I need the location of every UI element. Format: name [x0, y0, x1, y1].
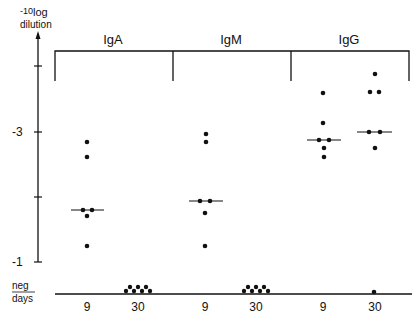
x-label-iga-9: 9	[84, 300, 91, 314]
x-label-igm-9: 9	[202, 300, 209, 314]
x-label-igg-30: 30	[368, 300, 382, 314]
series-igm-30	[242, 285, 270, 293]
series-igg-30	[357, 72, 392, 295]
x-label-iga-30: 30	[131, 300, 145, 314]
group-label-igm: IgM	[220, 32, 242, 47]
neg-label: neg	[12, 280, 29, 291]
ylabel-exp: -10	[20, 6, 33, 16]
series-igg-9	[307, 91, 341, 160]
data-point	[85, 140, 90, 145]
y-tick-label: -3	[12, 125, 23, 139]
data-point	[85, 155, 90, 160]
group-label-iga: IgA	[103, 32, 123, 47]
days-label: days	[12, 293, 33, 304]
dot-plot: -10 log dilution -3 -1 neg days IgA IgM …	[0, 0, 419, 319]
data-point	[85, 214, 90, 219]
data-point	[81, 208, 86, 213]
group-label-igg: IgG	[339, 32, 360, 47]
series-igm-9	[189, 132, 223, 249]
data-point	[90, 208, 95, 213]
data-point	[85, 244, 90, 249]
ylabel-dilution: dilution	[20, 19, 52, 30]
group-bracket	[55, 51, 409, 81]
series-iga-9	[71, 140, 104, 249]
y-tick-label: -1	[12, 255, 23, 269]
y-axis-arrow-icon	[36, 31, 41, 39]
ylabel-log: log	[33, 6, 48, 18]
series-iga-30	[124, 285, 152, 293]
x-label-igg-9: 9	[320, 300, 327, 314]
x-label-igm-30: 30	[249, 300, 263, 314]
